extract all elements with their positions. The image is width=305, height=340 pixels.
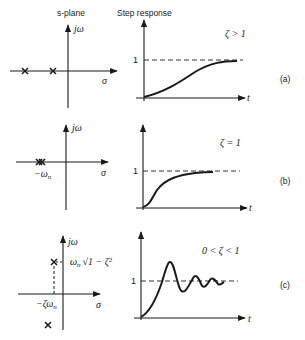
steady-state-label: 1 — [131, 276, 136, 286]
time-axis-label: t — [249, 202, 252, 213]
s-plane-header: s-plane — [57, 8, 85, 18]
imag-axis-label: jω — [66, 236, 78, 247]
underdamped-curve — [141, 262, 224, 317]
condition-label: 0 < ζ < 1 — [202, 245, 240, 257]
step-response-b: t 1 ζ = 1 — [133, 125, 252, 213]
steady-state-label: 1 — [133, 166, 138, 176]
panel-b: jω σ −ωn t 1 ζ = 1 (b) — [16, 122, 291, 213]
critically-damped-curve — [143, 172, 213, 207]
real-axis-label: σ — [101, 167, 107, 178]
s-plane-a: jω σ — [10, 23, 117, 108]
imag-axis-label: jω — [72, 23, 84, 34]
pole-x-icon — [45, 322, 51, 328]
s-plane-c: jω σ −ζωn ωn√1 − ζ² — [18, 236, 113, 330]
time-axis-label: t — [247, 92, 250, 103]
panel-label: (a) — [280, 74, 291, 84]
step-response-a: t 1 ζ > 1 — [133, 20, 250, 103]
real-axis-label: σ — [96, 299, 102, 310]
panel-c: jω σ −ζωn ωn√1 − ζ² t 1 0 < ζ < 1 (c) — [18, 232, 290, 330]
panel-label: (b) — [280, 176, 291, 186]
overdamped-curve — [144, 61, 237, 97]
step-response-c: t 1 0 < ζ < 1 — [131, 232, 251, 324]
real-axis-label: σ — [102, 75, 108, 86]
imag-axis-label: jω — [70, 122, 82, 133]
damping-diagram: s-plane Step response jω σ t 1 ζ > 1 (a — [0, 0, 305, 340]
real-part-label: −ζωn — [36, 298, 57, 311]
imag-part-label: ωn√1 − ζ² — [70, 256, 113, 269]
condition-label: ζ = 1 — [220, 137, 241, 149]
step-response-header: Step response — [117, 8, 172, 18]
pole-label: −ωn — [34, 168, 52, 181]
panel-label: (c) — [280, 280, 290, 290]
time-axis-label: t — [248, 313, 251, 324]
steady-state-label: 1 — [133, 55, 138, 65]
s-plane-b: jω σ −ωn — [16, 122, 108, 210]
condition-label: ζ > 1 — [225, 28, 246, 40]
panel-a: jω σ t 1 ζ > 1 (a) — [10, 20, 291, 108]
